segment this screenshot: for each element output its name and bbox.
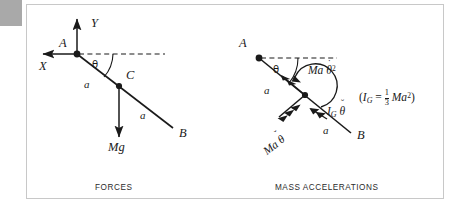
point-A-node xyxy=(74,51,81,58)
centripetal-arrowhead-outer xyxy=(281,75,291,81)
moment-of-inertia-formula: (IG = 13 Ma2) xyxy=(359,89,415,107)
segment-length-label-upper: a xyxy=(84,79,90,90)
moment-theta: ˘θ xyxy=(340,106,346,118)
formula-term: Ma xyxy=(392,91,407,103)
caption-forces: FORCES xyxy=(95,183,132,192)
centripetal-exponent: 2 xyxy=(332,64,336,73)
x-axis-label: X xyxy=(39,60,47,73)
caption-mass-accelerations: MASS ACCELERATIONS xyxy=(275,183,378,192)
corner-tab-decoration xyxy=(0,0,22,26)
point-A-label: A xyxy=(59,37,67,50)
point-C-label: C xyxy=(126,69,134,82)
tangential-acceleration-vector xyxy=(279,95,305,117)
angle-arc xyxy=(104,54,113,77)
segment-length-label-upper-2: a xyxy=(264,85,270,96)
centripetal-base: Ma xyxy=(308,64,323,76)
point-A-label-2: A xyxy=(239,37,247,50)
segment-length-label-lower-2: a xyxy=(323,125,329,136)
angle-theta-label-2: θ xyxy=(273,65,279,75)
y-axis-label: Y xyxy=(91,17,98,30)
point-B-label-2: B xyxy=(357,129,365,142)
weight-force-label: Mg xyxy=(108,141,125,154)
moment-overdot: ˘ xyxy=(341,100,344,109)
figure-frame: Y X A θ a C a B Mg A θ a a B Ma ˙θ2 Ma ˘… xyxy=(26,4,444,199)
centripetal-overdot: ˙ xyxy=(328,60,331,69)
point-A-node-2 xyxy=(256,55,263,62)
centripetal-vector-label: Ma ˙θ2 xyxy=(308,65,336,77)
angle-theta-label: θ xyxy=(92,60,98,70)
figure-screenshot: Y X A θ a C a B Mg A θ a a B Ma ˙θ2 Ma ˘… xyxy=(0,0,449,211)
segment-length-label-lower: a xyxy=(140,110,146,121)
point-B-label: B xyxy=(179,127,187,140)
moment-vector-label: IG ˘θ xyxy=(327,106,345,119)
formula-close-paren: ) xyxy=(411,91,415,103)
centripetal-theta: ˙θ xyxy=(326,65,332,77)
